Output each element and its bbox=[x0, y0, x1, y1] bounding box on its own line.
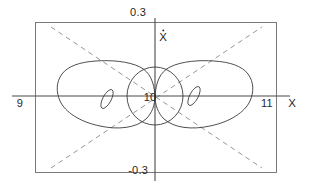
phase-plane-figure: 0.3 -0.3 9 10 11 X X bbox=[0, 0, 311, 191]
y-axis-name-overdot-icon bbox=[162, 29, 164, 31]
y-axis-tick-upper: 0.3 bbox=[130, 6, 146, 18]
x-axis-tick-center: 10 bbox=[144, 91, 157, 103]
left-small-ellipse bbox=[98, 88, 115, 110]
x-axis-name-label: X bbox=[288, 97, 296, 109]
y-axis-tick-lower: -0.3 bbox=[128, 164, 148, 176]
x-axis-tick-right: 11 bbox=[261, 97, 273, 109]
x-axis-tick-left: 9 bbox=[17, 97, 23, 109]
y-axis-name-label: X bbox=[159, 31, 167, 43]
figure-canvas: 0.3 -0.3 9 10 11 X X bbox=[0, 0, 311, 191]
